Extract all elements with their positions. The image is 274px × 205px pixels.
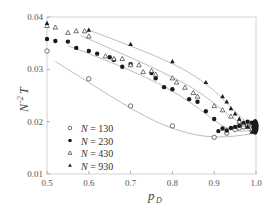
x-tick-label: 0.6 bbox=[83, 178, 95, 188]
fit-curve bbox=[80, 35, 256, 128]
filled-triangle-marker-icon bbox=[220, 94, 225, 98]
x-tick-label: 1.0 bbox=[250, 178, 262, 188]
legend-label: N = 130 bbox=[80, 123, 113, 134]
series-n230 bbox=[45, 37, 254, 134]
filled-triangle-marker-icon bbox=[170, 59, 175, 63]
y-axis-label-superscript: -2 bbox=[16, 96, 25, 103]
filled-circle-marker-icon bbox=[245, 119, 249, 123]
filled-circle-marker-icon bbox=[153, 76, 157, 80]
filled-triangle-marker-icon bbox=[204, 80, 209, 84]
y-tick-label: 0.01 bbox=[27, 169, 43, 179]
open-circle-marker-icon bbox=[68, 126, 72, 130]
open-triangle-marker-icon bbox=[53, 25, 58, 29]
filled-circle-marker-icon bbox=[195, 100, 199, 104]
open-triangle-marker-icon bbox=[120, 56, 125, 60]
filled-circle-marker-icon bbox=[220, 126, 224, 130]
filled-triangle-marker-icon bbox=[45, 21, 50, 25]
filled-circle-marker-icon bbox=[74, 46, 78, 50]
y-tick-label: 0.04 bbox=[27, 12, 43, 22]
filled-circle-marker-icon bbox=[216, 129, 220, 133]
legend-item: N = 430 bbox=[68, 148, 113, 159]
open-triangle-marker-icon bbox=[191, 90, 196, 94]
filled-triangle-marker-icon bbox=[87, 28, 92, 32]
filled-circle-marker-icon bbox=[212, 117, 216, 121]
legend-item: N = 130 bbox=[68, 123, 113, 134]
open-triangle-marker-icon bbox=[87, 34, 92, 38]
open-circle-marker-icon bbox=[87, 77, 91, 81]
filled-circle-marker-icon bbox=[66, 39, 70, 43]
legend-label: N = 230 bbox=[80, 136, 113, 147]
open-triangle-marker-icon bbox=[82, 29, 87, 33]
filled-circle-marker-icon bbox=[187, 97, 191, 101]
filled-circle-marker-icon bbox=[233, 125, 237, 129]
marker-cluster bbox=[252, 119, 259, 135]
open-circle-marker-icon bbox=[212, 135, 216, 139]
series-n130 bbox=[45, 49, 256, 140]
filled-circle-marker-icon bbox=[225, 128, 229, 132]
filled-triangle-marker-icon bbox=[68, 163, 72, 166]
filled-circle-marker-icon bbox=[204, 109, 208, 113]
filled-circle-marker-icon bbox=[237, 124, 241, 128]
open-triangle-marker-icon bbox=[183, 85, 188, 89]
y-axis-label: N -2 T bbox=[16, 86, 31, 113]
filled-triangle-marker-icon bbox=[128, 42, 133, 46]
filled-circle-marker-icon bbox=[53, 39, 57, 43]
plot-frame bbox=[47, 17, 256, 174]
legend-item: N = 230 bbox=[68, 136, 113, 147]
x-axis-label: p D bbox=[147, 188, 162, 205]
y-axis-label-tail: T bbox=[17, 86, 31, 94]
open-triangle-marker-icon bbox=[103, 54, 108, 58]
y-tick-label: 0.02 bbox=[27, 117, 43, 127]
filled-circle-marker-icon bbox=[170, 87, 174, 91]
scatter-chart: 0.50.60.70.80.91.0 0.010.020.030.04 p D … bbox=[0, 0, 274, 205]
open-triangle-marker-icon bbox=[149, 68, 154, 72]
open-circle-marker-icon bbox=[45, 49, 49, 53]
legend-label: N = 930 bbox=[80, 161, 113, 172]
filled-circle-marker-icon bbox=[87, 49, 91, 53]
filled-circle-marker-icon bbox=[45, 37, 49, 41]
filled-circle-marker-icon bbox=[162, 85, 166, 89]
x-axis-ticks: 0.50.60.70.80.91.0 bbox=[41, 171, 262, 188]
filled-circle-marker-icon bbox=[120, 65, 124, 69]
open-circle-marker-icon bbox=[128, 104, 132, 108]
open-triangle-marker-icon bbox=[68, 151, 72, 154]
series-n930 bbox=[45, 21, 258, 134]
open-triangle-marker-icon bbox=[137, 63, 142, 67]
y-tick-label: 0.03 bbox=[27, 64, 43, 74]
filled-circle-marker-icon bbox=[68, 139, 72, 143]
open-triangle-marker-icon bbox=[66, 30, 71, 34]
x-tick-label: 0.8 bbox=[167, 178, 179, 188]
open-circle-marker-icon bbox=[170, 124, 174, 128]
filled-circle-marker-icon bbox=[229, 126, 233, 130]
x-axis-label-main: p bbox=[147, 188, 155, 203]
cluster-at-one bbox=[252, 119, 259, 135]
x-axis-label-subscript: D bbox=[155, 196, 162, 205]
legend-label: N = 430 bbox=[80, 148, 113, 159]
legend: N = 130N = 230N = 430N = 930 bbox=[68, 123, 113, 172]
open-triangle-marker-icon bbox=[74, 29, 79, 33]
legend-item: N = 930 bbox=[68, 161, 113, 172]
x-tick-label: 0.5 bbox=[41, 178, 53, 188]
filled-circle-marker-icon bbox=[95, 51, 99, 55]
open-triangle-marker-icon bbox=[229, 114, 234, 118]
fit-curves bbox=[55, 30, 256, 137]
open-triangle-marker-icon bbox=[212, 103, 217, 107]
open-triangle-marker-icon bbox=[141, 69, 146, 73]
series-n430 bbox=[45, 23, 254, 131]
x-tick-label: 0.9 bbox=[209, 178, 221, 188]
filled-triangle-marker-icon bbox=[229, 106, 234, 110]
filled-circle-marker-icon bbox=[108, 55, 112, 59]
y-axis-label-main: N bbox=[17, 103, 31, 113]
x-tick-label: 0.7 bbox=[125, 178, 137, 188]
